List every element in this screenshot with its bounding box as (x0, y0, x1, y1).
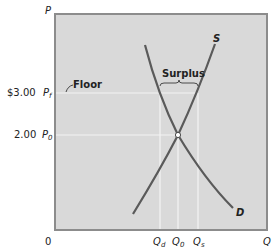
equilibrium-price-value: 2.00 (14, 129, 36, 140)
qs-label: Qs (193, 236, 205, 249)
supply-label: S (213, 33, 220, 44)
qd-label: Qd (153, 236, 166, 249)
equilibrium-point (175, 132, 180, 137)
demand-label: D (236, 207, 244, 218)
q0-label: Q0 (172, 236, 185, 249)
supply-demand-diagram: P Q 0 $3.00 Pf 2.00 P0 Qd Q0 Qs S D Floo… (0, 0, 277, 251)
price-floor-symbol: Pf (43, 87, 53, 100)
equilibrium-price-symbol: P0 (42, 129, 53, 142)
origin-label: 0 (45, 236, 51, 247)
plot-area (55, 14, 267, 230)
y-axis-label: P (45, 5, 52, 16)
x-axis-label: Q (263, 236, 271, 247)
floor-label: Floor (73, 79, 102, 90)
price-floor-value: $3.00 (7, 87, 36, 98)
surplus-label: Surplus (162, 68, 205, 79)
